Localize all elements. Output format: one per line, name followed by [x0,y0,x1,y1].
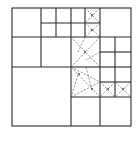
triangulation-edge [71,75,78,97]
mesh-node [84,51,86,53]
mesh-node [91,29,93,31]
mesh-node [91,88,93,90]
mesh-node [91,14,93,16]
mesh-node [78,73,80,75]
quadtree-diagram [0,0,140,141]
triangulation-edge [78,37,85,52]
triangulation-edge [71,67,100,82]
triangulation-edge [71,82,100,97]
triangulation-edge [86,52,100,60]
mesh-node [107,88,109,90]
triangulation-edge [71,67,100,97]
mesh-node [122,88,124,90]
